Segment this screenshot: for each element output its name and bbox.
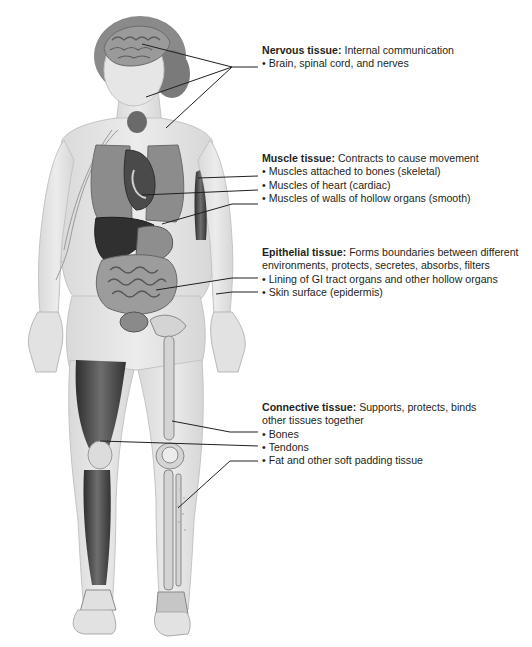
- nervous-tissue-label: Nervous tissue: Internal communication B…: [262, 44, 454, 71]
- muscle-tissue-label: Muscle tissue: Contracts to cause moveme…: [262, 152, 479, 205]
- epithelial-item-gi-lining: Lining of GI tract organs and other holl…: [262, 273, 524, 286]
- muscle-tissue-description: Contracts to cause movement: [338, 152, 479, 164]
- muscle-item-smooth: Muscles of walls of hollow organs (smoot…: [262, 192, 479, 205]
- connective-tissue-title: Connective tissue:: [262, 401, 356, 413]
- nervous-item-brain: Brain, spinal cord, and nerves: [262, 57, 454, 70]
- nervous-tissue-description: Internal communication: [344, 44, 454, 56]
- connective-item-bones: Bones: [262, 428, 492, 441]
- nervous-tissue-heading: Nervous tissue: Internal communication: [262, 44, 454, 57]
- muscle-tissue-heading: Muscle tissue: Contracts to cause moveme…: [262, 152, 479, 165]
- body-illustration: [0, 0, 532, 647]
- muscle-tissue-title: Muscle tissue:: [262, 152, 335, 164]
- epithelial-item-skin: Skin surface (epidermis): [262, 286, 524, 299]
- connective-tissue-label: Connective tissue: Supports, protects, b…: [262, 401, 492, 467]
- connective-tissue-heading: Connective tissue: Supports, protects, b…: [262, 401, 492, 428]
- epithelial-tissue-heading: Epithelial tissue: Forms boundaries betw…: [262, 246, 524, 273]
- epithelial-tissue-label: Epithelial tissue: Forms boundaries betw…: [262, 246, 524, 299]
- connective-item-tendons: Tendons: [262, 441, 492, 454]
- nervous-tissue-title: Nervous tissue:: [262, 44, 341, 56]
- muscle-item-skeletal: Muscles attached to bones (skeletal): [262, 165, 479, 178]
- epithelial-tissue-title: Epithelial tissue:: [262, 246, 346, 258]
- connective-item-fat: Fat and other soft padding tissue: [262, 454, 492, 467]
- head: [104, 26, 170, 106]
- muscle-item-cardiac: Muscles of heart (cardiac): [262, 179, 479, 192]
- feet: [73, 610, 190, 636]
